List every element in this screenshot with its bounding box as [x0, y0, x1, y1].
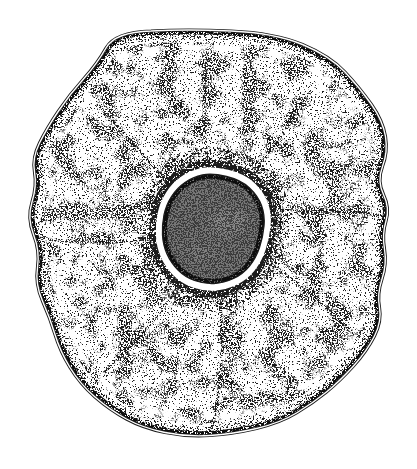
cell-figure-canvas [0, 0, 417, 469]
cell-illustration-figure [0, 0, 417, 469]
cell [30, 30, 388, 436]
